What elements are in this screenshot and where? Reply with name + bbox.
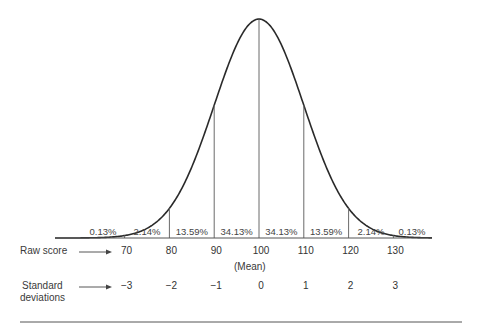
sd-divider-lines bbox=[125, 19, 394, 238]
raw-score-tick: 70 bbox=[121, 245, 132, 256]
raw-score-arrowhead bbox=[106, 250, 112, 255]
sd-tick: 2 bbox=[348, 280, 354, 291]
raw-score-tick: 90 bbox=[211, 245, 222, 256]
raw-score-label: Raw score bbox=[20, 245, 67, 256]
region-percent-label: 2.14% bbox=[134, 226, 161, 237]
sd-tick: 1 bbox=[303, 280, 309, 291]
normal-curve bbox=[55, 19, 432, 238]
sd-tick: −2 bbox=[166, 280, 177, 291]
mean-label: (Mean) bbox=[234, 261, 266, 272]
raw-score-tick: 120 bbox=[342, 245, 359, 256]
raw-score-tick: 100 bbox=[253, 245, 270, 256]
sd-arrowhead bbox=[106, 285, 112, 290]
region-percent-label: 13.59% bbox=[310, 226, 342, 237]
sd-tick: −1 bbox=[210, 280, 221, 291]
raw-score-tick: 110 bbox=[298, 245, 314, 256]
bell-curve-plot bbox=[0, 0, 480, 327]
sd-label-line2: deviations bbox=[20, 292, 65, 303]
sd-label-line1: Standard bbox=[22, 280, 63, 291]
raw-score-tick: 130 bbox=[387, 245, 404, 256]
region-percent-label: 2.14% bbox=[358, 226, 385, 237]
region-percent-label: 0.13% bbox=[90, 226, 117, 237]
region-percent-label: 0.13% bbox=[399, 226, 426, 237]
sd-tick: 3 bbox=[393, 280, 399, 291]
region-percent-label: 13.59% bbox=[176, 226, 208, 237]
region-percent-label: 34.13% bbox=[265, 226, 297, 237]
sd-tick: −3 bbox=[121, 280, 132, 291]
raw-score-tick: 80 bbox=[166, 245, 177, 256]
sd-tick: 0 bbox=[258, 280, 264, 291]
region-percent-label: 34.13% bbox=[220, 226, 252, 237]
